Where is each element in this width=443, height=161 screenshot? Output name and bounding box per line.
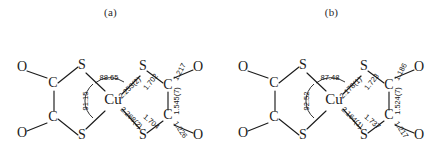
angle-value-left: 92.52 xyxy=(302,91,311,110)
atom-s-bottom-left: S xyxy=(299,127,307,142)
angle-value-left: 91.15 xyxy=(81,91,90,110)
figure-root: (a) O C S C O xyxy=(0,0,443,161)
atom-o-bottom-left: O xyxy=(238,125,248,140)
distance-s-c-top: 1.702 xyxy=(141,72,159,92)
atom-s-top-left: S xyxy=(78,57,86,72)
bond-c-bottomleft-s xyxy=(279,119,299,135)
atom-o-top-left: O xyxy=(17,59,27,74)
atom-o-bottom-right: O xyxy=(193,127,203,142)
atom-c-top-left: C xyxy=(269,75,278,90)
angle-value-top: 88.65 xyxy=(99,73,118,82)
distance-c-o-bottom: 1.217 xyxy=(393,119,411,139)
distance-s-c-top: 1.723 xyxy=(362,72,380,92)
bond-o-topleft-c xyxy=(27,71,47,78)
atom-o-top-right: O xyxy=(414,59,424,74)
distance-cu-s-top: 2.178(1) xyxy=(338,75,364,101)
atom-o-bottom-right: O xyxy=(414,127,424,142)
distance-c-o-bottom: 1.226 xyxy=(172,119,190,139)
distance-cu-s-bottom: 2.164(1) xyxy=(339,105,365,131)
distance-c-o-top: 1.217 xyxy=(171,61,188,82)
structure-panel-a: (a) O C S C O xyxy=(0,0,221,161)
atom-c-top-left: C xyxy=(48,75,57,90)
distance-c-o-top: 1.186 xyxy=(392,61,409,82)
panel-a-caption: (a) xyxy=(0,6,221,18)
bond-c-topleft-s xyxy=(58,67,78,83)
atom-c-bottom-left: C xyxy=(48,109,57,124)
bond-c-bottomleft-s xyxy=(58,119,78,135)
bond-o-bottomleft-c xyxy=(248,123,268,131)
bond-o-topleft-c xyxy=(248,71,268,78)
distance-cu-s-top: 2.253(2) xyxy=(117,75,143,101)
atom-s-top-right: S xyxy=(139,58,147,73)
atom-o-top-right: O xyxy=(193,59,203,74)
atom-s-top-right: S xyxy=(360,58,368,73)
distance-cu-s-bottom: 2.268(2) xyxy=(118,105,144,131)
atom-s-bottom-left: S xyxy=(78,127,86,142)
panel-b-diagram: O C S C O S Cu S C O S C O 87.48 92.52 2… xyxy=(221,26,442,161)
bond-c-topleft-s xyxy=(279,67,299,83)
distance-c-c-right: 1.524(7) xyxy=(393,87,402,115)
atom-s-bottom-right: S xyxy=(360,127,368,142)
bond-o-bottomleft-c xyxy=(27,123,47,131)
panel-b-caption: (b) xyxy=(221,6,442,18)
structure-panel-b: (b) O C S C O xyxy=(221,0,442,161)
distance-c-c-right: 1.545(7) xyxy=(172,87,181,115)
panel-a-diagram: O C S C O S Cu S C O S C O 88.65 91.15 2… xyxy=(0,26,221,161)
atom-s-bottom-right: S xyxy=(139,127,147,142)
atom-o-top-left: O xyxy=(238,59,248,74)
atom-o-bottom-left: O xyxy=(17,125,27,140)
atom-s-top-left: S xyxy=(299,57,307,72)
atom-c-bottom-left: C xyxy=(269,109,278,124)
angle-value-top: 87.48 xyxy=(320,73,339,82)
